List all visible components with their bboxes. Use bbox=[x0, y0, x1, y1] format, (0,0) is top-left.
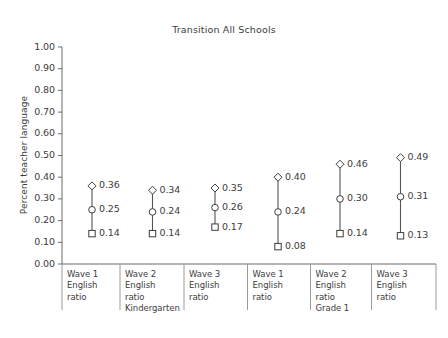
x-axis-category-line: ratio bbox=[377, 292, 437, 303]
marker-circle-middle bbox=[275, 209, 282, 216]
data-label-lower: 0.13 bbox=[408, 229, 429, 240]
x-axis-category-line: ratio bbox=[189, 292, 248, 303]
x-axis-category-line: ratio bbox=[316, 292, 372, 303]
x-axis-category-line: Kindergarten bbox=[125, 303, 184, 314]
data-label-lower: 0.14 bbox=[99, 227, 120, 238]
marker-diamond-upper bbox=[149, 186, 157, 194]
data-label-middle: 0.24 bbox=[160, 205, 181, 216]
data-label-upper: 0.49 bbox=[408, 151, 429, 162]
data-label-middle: 0.31 bbox=[408, 190, 429, 201]
x-axis-category-line: English bbox=[189, 280, 248, 291]
data-label-upper: 0.46 bbox=[347, 158, 368, 169]
marker-square-lower bbox=[275, 243, 281, 249]
data-label-upper: 0.34 bbox=[160, 184, 181, 195]
x-axis-category-cell: Wave 1Englishratio bbox=[62, 266, 120, 312]
x-axis-category-cell: Wave 1Englishratio bbox=[248, 266, 311, 312]
x-axis-category-line: English bbox=[125, 280, 184, 291]
marker-square-lower bbox=[212, 224, 218, 230]
marker-square-lower bbox=[149, 230, 155, 236]
chart-container: Transition All Schools Percent teacher l… bbox=[0, 0, 448, 338]
marker-circle-middle bbox=[212, 204, 219, 211]
x-axis-category-cell: Wave 2EnglishratioGrade 1 bbox=[311, 266, 372, 312]
data-label-upper: 0.36 bbox=[99, 179, 120, 190]
x-axis-category-line: Wave 1 bbox=[253, 269, 311, 280]
x-axis-category-line: ratio bbox=[253, 292, 311, 303]
x-axis-category-line: Grade 1 bbox=[316, 303, 372, 314]
data-label-middle: 0.25 bbox=[99, 203, 120, 214]
data-label-upper: 0.40 bbox=[285, 171, 306, 182]
x-axis-category-line: Wave 1 bbox=[67, 269, 120, 280]
marker-circle-middle bbox=[149, 209, 156, 216]
data-label-lower: 0.14 bbox=[160, 227, 181, 238]
data-label-middle: 0.26 bbox=[222, 201, 243, 212]
x-axis-category-line: Wave 3 bbox=[377, 269, 437, 280]
marker-square-lower bbox=[397, 233, 403, 239]
x-axis-category-cell: Wave 3Englishratio bbox=[184, 266, 248, 312]
x-axis-category-line: Wave 2 bbox=[316, 269, 372, 280]
marker-circle-middle bbox=[397, 193, 404, 200]
x-axis-category-cell: Wave 3Englishratio bbox=[372, 266, 437, 312]
x-axis-category-line: Wave 2 bbox=[125, 269, 184, 280]
marker-circle-middle bbox=[89, 206, 96, 213]
x-axis-category-line: Wave 3 bbox=[189, 269, 248, 280]
x-axis-category-line: English bbox=[316, 280, 372, 291]
x-axis-category-line: ratio bbox=[125, 292, 184, 303]
marker-diamond-upper bbox=[211, 184, 219, 192]
x-axis-category-line: ratio bbox=[67, 292, 120, 303]
marker-square-lower bbox=[89, 230, 95, 236]
marker-diamond-upper bbox=[88, 182, 96, 190]
x-axis-category-line: English bbox=[377, 280, 437, 291]
marker-diamond-upper bbox=[336, 160, 344, 168]
marker-circle-middle bbox=[337, 196, 344, 203]
x-axis-category-line: English bbox=[67, 280, 120, 291]
data-label-middle: 0.30 bbox=[347, 192, 368, 203]
data-label-lower: 0.17 bbox=[222, 221, 243, 232]
marker-diamond-upper bbox=[397, 154, 405, 162]
marker-square-lower bbox=[337, 230, 343, 236]
data-label-middle: 0.24 bbox=[285, 205, 306, 216]
data-label-upper: 0.35 bbox=[222, 182, 243, 193]
marker-diamond-upper bbox=[274, 173, 282, 181]
x-axis-category-line: English bbox=[253, 280, 311, 291]
x-axis-category-cell: Wave 2EnglishratioKindergarten bbox=[120, 266, 184, 312]
data-label-lower: 0.08 bbox=[285, 240, 306, 251]
data-label-lower: 0.14 bbox=[347, 227, 368, 238]
